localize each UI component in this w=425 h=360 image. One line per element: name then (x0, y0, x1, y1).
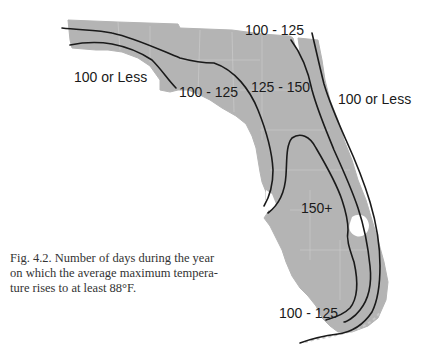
zone-label-north-100-125: 100 - 125 (245, 23, 304, 37)
florida-map (0, 0, 425, 360)
zone-label-west-100-or-less: 100 or Less (74, 70, 147, 84)
caption-line: on which the average maximum tempera- (10, 266, 230, 281)
zone-label-south-100-125: 100 - 125 (279, 306, 338, 320)
caption-line: Fig. 4.2. Number of days during the year (10, 251, 230, 266)
lake-okeechobee (349, 215, 369, 237)
zone-label-central-125-150: 125 - 150 (251, 80, 310, 94)
zone-label-east-100-or-less: 100 or Less (338, 92, 411, 106)
caption-line: ture rises to at least 88°F. (10, 281, 230, 296)
zone-label-south-150-plus: 150+ (301, 201, 333, 215)
zone-label-panhandle-100-125: 100 - 125 (179, 85, 238, 99)
figure-caption: Fig. 4.2. Number of days during the year… (10, 251, 230, 296)
